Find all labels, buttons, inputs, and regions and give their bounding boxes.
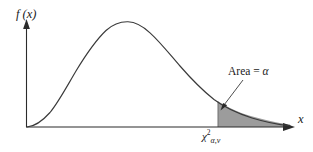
area-annotation-leader-line (223, 80, 244, 107)
shaded-tail-area (218, 102, 290, 128)
chi-square-distribution-figure: f (x) x Area = α χ2α,ν (0, 0, 313, 152)
critical-value-label: χ2α,ν (202, 129, 220, 145)
critical-value-subscript: α,ν (211, 136, 221, 145)
area-annotation-alpha-symbol: α (263, 65, 269, 77)
area-annotation-prefix: Area = (228, 65, 263, 77)
y-axis-label: f (x) (16, 8, 36, 21)
x-axis-label: x (298, 113, 304, 126)
x-axis-arrowhead-icon (283, 123, 295, 131)
shaded-area-annotation: Area = α (228, 66, 269, 78)
